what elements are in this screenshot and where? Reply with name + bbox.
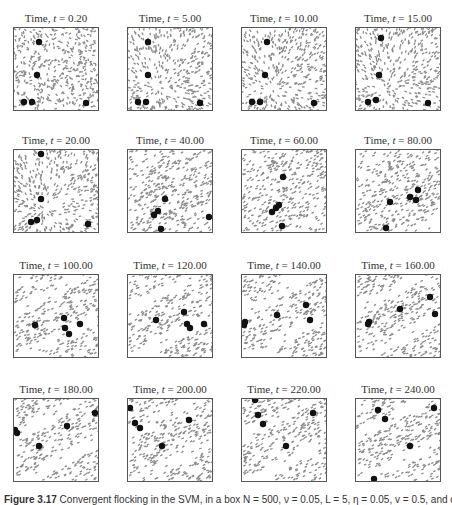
caption-label: Figure 3.17 bbox=[4, 494, 57, 505]
particle-field bbox=[356, 150, 440, 232]
leader-particle bbox=[375, 407, 381, 413]
simulation-box bbox=[127, 149, 213, 233]
panel-title: Time, t = 60.00 bbox=[221, 134, 347, 146]
leader-particle bbox=[153, 317, 159, 323]
leader-particle bbox=[36, 39, 42, 45]
leader-particle bbox=[252, 399, 258, 403]
particle-field bbox=[242, 28, 326, 110]
leader-particle bbox=[415, 187, 421, 193]
leader-particle bbox=[432, 311, 438, 317]
simulation-box bbox=[13, 398, 99, 482]
leader-particle bbox=[431, 405, 437, 411]
leader-particle bbox=[132, 420, 138, 426]
leader-particle bbox=[262, 72, 268, 78]
leader-particle bbox=[365, 321, 371, 327]
simulation-box bbox=[355, 274, 441, 358]
particle-field bbox=[128, 275, 212, 357]
leader-particle bbox=[373, 97, 379, 103]
leader-particle bbox=[158, 226, 164, 232]
panel-title: Time, t = 15.00 bbox=[335, 12, 452, 24]
particle-field bbox=[128, 399, 212, 481]
panel-title: Time, t = 120.00 bbox=[107, 259, 233, 271]
panel-title: Time, t = 5.00 bbox=[107, 12, 233, 24]
leader-particle bbox=[66, 331, 72, 337]
leader-particle bbox=[382, 416, 388, 422]
panel-title: Time, t = 10.00 bbox=[221, 12, 347, 24]
leader-particle bbox=[155, 208, 161, 214]
panel-title: Time, t = 240.00 bbox=[335, 383, 452, 395]
leader-particle bbox=[162, 196, 168, 202]
simulation-box bbox=[127, 274, 213, 358]
leader-particle bbox=[264, 39, 270, 45]
leader-particle bbox=[83, 100, 89, 106]
leader-particle bbox=[274, 312, 280, 318]
leader-particle bbox=[135, 99, 141, 105]
simulation-box bbox=[241, 149, 327, 233]
leader-particle bbox=[206, 214, 212, 220]
particle-field bbox=[128, 28, 212, 110]
leader-particle bbox=[307, 317, 313, 323]
leader-particle bbox=[311, 100, 317, 106]
particle-field bbox=[14, 28, 98, 110]
panel-title: Time, t = 160.00 bbox=[335, 259, 452, 271]
leader-particle bbox=[64, 423, 70, 429]
leader-particle bbox=[143, 99, 149, 105]
leader-particle bbox=[21, 99, 27, 105]
leader-particle bbox=[187, 325, 193, 331]
leader-particle bbox=[376, 72, 382, 78]
simulation-box bbox=[241, 274, 327, 358]
leader-particle bbox=[283, 443, 289, 449]
panel-title: Time, t = 80.00 bbox=[335, 134, 452, 146]
leader-particle bbox=[32, 322, 38, 328]
leader-particle bbox=[427, 294, 433, 300]
leader-particle bbox=[378, 35, 384, 41]
leader-particle bbox=[137, 425, 143, 431]
simulation-box bbox=[127, 27, 213, 111]
leader-particle bbox=[29, 99, 35, 105]
leader-particle bbox=[425, 100, 431, 106]
leader-particle bbox=[260, 421, 266, 427]
panel-title: Time, t = 0.20 bbox=[0, 12, 119, 24]
panel-title: Time, t = 200.00 bbox=[107, 383, 233, 395]
figure-caption: Figure 3.17 Convergent flocking in the S… bbox=[4, 494, 452, 505]
leader-particle bbox=[249, 99, 255, 105]
leader-particle bbox=[407, 443, 413, 449]
leader-particle bbox=[383, 225, 389, 231]
leader-particle bbox=[77, 321, 83, 327]
panel-title: Time, t = 220.00 bbox=[221, 383, 347, 395]
simulation-box bbox=[241, 27, 327, 111]
particle-field bbox=[14, 399, 98, 481]
particle-field bbox=[128, 150, 212, 232]
leader-particle bbox=[145, 39, 151, 45]
leader-particle bbox=[61, 315, 67, 321]
leader-particle bbox=[280, 174, 286, 180]
leader-particle bbox=[36, 443, 42, 449]
leader-particle bbox=[181, 309, 187, 315]
leader-particle bbox=[62, 325, 68, 331]
leader-particle bbox=[255, 412, 261, 418]
leader-particle bbox=[28, 219, 34, 225]
particle-field bbox=[242, 275, 326, 357]
leader-particle bbox=[242, 319, 248, 325]
simulation-box bbox=[13, 274, 99, 358]
leader-particle bbox=[159, 443, 165, 449]
leader-particle bbox=[279, 223, 285, 229]
simulation-box bbox=[355, 149, 441, 233]
panel-title: Time, t = 100.00 bbox=[0, 259, 119, 271]
particle-field bbox=[14, 275, 98, 357]
panel-title: Time, t = 140.00 bbox=[221, 259, 347, 271]
leader-particle bbox=[145, 72, 151, 78]
particle-field bbox=[356, 275, 440, 357]
leader-particle bbox=[413, 197, 419, 203]
leader-particle bbox=[34, 72, 40, 78]
leader-particle bbox=[407, 194, 413, 200]
leader-particle bbox=[365, 99, 371, 105]
leader-particle bbox=[197, 100, 203, 106]
leader-particle bbox=[371, 476, 377, 481]
leader-particle bbox=[92, 410, 98, 416]
simulation-box bbox=[355, 398, 441, 482]
leader-particle bbox=[186, 417, 192, 423]
leader-particle bbox=[201, 321, 207, 327]
leader-particle bbox=[276, 202, 282, 208]
simulation-box bbox=[241, 398, 327, 482]
